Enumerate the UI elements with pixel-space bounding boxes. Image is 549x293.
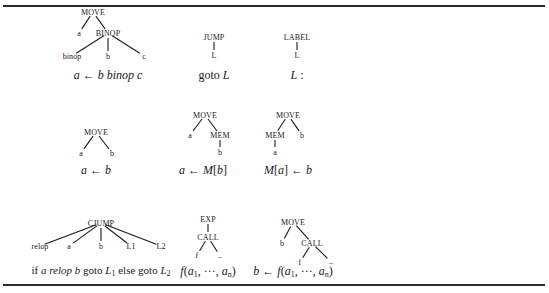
bottom-rule <box>3 284 545 286</box>
tree-edge <box>208 119 217 131</box>
bracket-close: ] <box>223 163 227 177</box>
tree-edges <box>0 0 549 293</box>
tree-node-move-simple: a <box>79 149 83 158</box>
formula-move-simple: a ← b <box>81 163 111 178</box>
arrow: ← <box>288 163 306 177</box>
tree-node-move-simple: b <box>110 149 114 158</box>
tree-node-move-binop: BINOP <box>96 29 121 38</box>
tree-node-cjump: L2 <box>156 242 165 251</box>
tree-node-cjump: a <box>67 242 71 251</box>
tree-node-cjump: relop <box>32 242 49 251</box>
formula-cjump: if a relop b goto L1 else goto L2 <box>31 264 170 278</box>
tree-node-move-binop: b <box>106 52 110 61</box>
tree-edge <box>84 136 93 149</box>
tree-edge <box>211 241 218 252</box>
formula-move-store: M[a] ← b <box>264 163 312 178</box>
tree-edge <box>82 16 90 29</box>
paren-close: ) <box>232 264 236 278</box>
tree-node-move-load: MEM <box>210 131 229 140</box>
formula-jump: goto L <box>198 68 229 83</box>
var-b: b <box>306 163 312 177</box>
arrow: ← <box>185 163 203 177</box>
subscript-2: 2 <box>167 269 171 278</box>
arrow: ← <box>259 264 277 278</box>
formula-move-load: a ← M[b] <box>179 163 227 178</box>
tree-edge <box>296 226 308 240</box>
paren-close: ) <box>329 264 333 278</box>
kw-goto: goto <box>198 68 222 82</box>
tree-node-move-call: MOVE <box>281 218 305 227</box>
var-b: b <box>105 163 111 177</box>
op-relop: relop <box>46 264 74 276</box>
tree-node-exp-call: EXP <box>200 215 215 224</box>
tree-node-jump: JUMP <box>204 33 225 42</box>
tree-edge <box>278 119 286 131</box>
var-L: L <box>290 68 297 82</box>
tree-node-exp-call: CALL <box>197 233 218 242</box>
tree-node-move-binop: binop <box>63 52 82 61</box>
formula-label: L : <box>290 68 303 83</box>
tree-node-move-binop: a <box>77 29 81 38</box>
formula-move-binop: a ← b binop c <box>74 68 143 83</box>
tree-edge <box>291 119 299 131</box>
var-L: L <box>223 68 230 82</box>
tree-edge <box>73 226 97 243</box>
tree-node-exp-call: – <box>218 252 222 261</box>
tree-edge <box>112 36 140 54</box>
var-M: M <box>264 163 274 177</box>
tree-node-move-simple: MOVE <box>84 128 108 137</box>
tree-node-move-load: b <box>218 148 222 157</box>
diagram-canvas: MOVEaBINOPbinopbcJUMPLLABELLMOVEabMOVEaM… <box>0 0 549 293</box>
colon: : <box>297 68 303 82</box>
tree-node-move-load: a <box>188 131 192 140</box>
tree-node-cjump: L1 <box>126 242 135 251</box>
tree-node-move-load: MOVE <box>193 111 217 120</box>
tree-node-move-store: b <box>300 131 304 140</box>
ellipsis: , ···, <box>295 264 319 278</box>
formula-exp-call: f(a1, ···, an) <box>180 264 235 279</box>
tree-node-move-binop: c <box>142 52 146 61</box>
arrow: ← <box>87 163 105 177</box>
tree-edge <box>193 119 202 131</box>
tree-node-move-store: a <box>273 148 277 157</box>
tree-edge <box>96 16 105 29</box>
kw-goto: goto <box>80 264 105 276</box>
op-binop: binop <box>104 68 137 82</box>
tree-node-move-binop: MOVE <box>81 8 105 17</box>
tree-edge <box>303 247 310 258</box>
var-c: c <box>137 68 142 82</box>
tree-node-jump: L <box>212 51 217 60</box>
tree-node-move-store: MOVE <box>276 111 300 120</box>
kw-else-goto: else goto <box>115 264 160 276</box>
tree-node-label: LABEL <box>284 33 310 42</box>
tree-node-cjump: b <box>99 242 103 251</box>
tree-edge <box>316 247 328 259</box>
var-M: M <box>203 163 213 177</box>
tree-node-move-call: b <box>280 239 284 248</box>
top-rule <box>3 5 545 7</box>
arrow: ← <box>80 68 98 82</box>
tree-edge <box>105 226 127 243</box>
tree-node-move-call: CALL <box>301 239 322 248</box>
tree-edge <box>99 136 109 149</box>
tree-node-cjump: CJUMP <box>88 219 114 228</box>
tree-node-exp-call: f <box>196 251 199 260</box>
ellipsis: , ···, <box>198 264 222 278</box>
formula-move-call: b ← f(a1, ···, an) <box>253 264 332 279</box>
tree-edge <box>284 226 290 238</box>
tree-edge <box>200 241 206 250</box>
tree-node-label: L <box>295 51 300 60</box>
tree-node-move-store: MEM <box>265 131 284 140</box>
